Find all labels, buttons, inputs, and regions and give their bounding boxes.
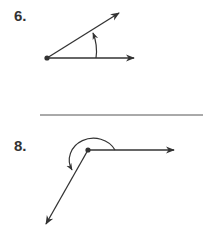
angle-arc-8 <box>69 138 115 170</box>
angle-8 <box>46 138 174 224</box>
angle-arc-6 <box>93 33 97 58</box>
ray-upper-6 <box>47 13 119 58</box>
vertex-dot-6 <box>44 55 49 60</box>
angle-6 <box>44 13 134 61</box>
vertex-dot-8 <box>85 147 90 152</box>
ray-lower-left-8 <box>46 150 88 224</box>
angle-figures <box>0 0 203 237</box>
